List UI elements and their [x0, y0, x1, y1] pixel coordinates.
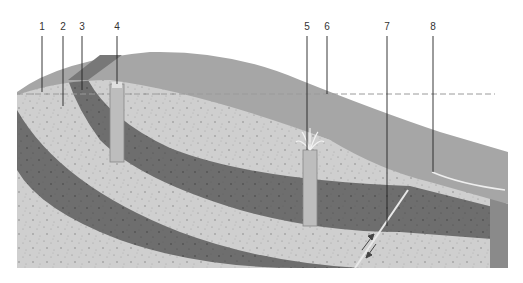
label-3: 3	[79, 22, 85, 32]
artesian-well	[303, 150, 317, 226]
label-7: 7	[384, 22, 390, 32]
ordinary-well	[110, 84, 124, 162]
geological-cross-section	[0, 0, 523, 283]
block-side-face	[490, 196, 508, 268]
label-6: 6	[324, 22, 330, 32]
label-1: 1	[39, 22, 45, 32]
label-5: 5	[304, 22, 310, 32]
label-2: 2	[60, 22, 66, 32]
label-8: 8	[430, 22, 436, 32]
label-4: 4	[114, 22, 120, 32]
